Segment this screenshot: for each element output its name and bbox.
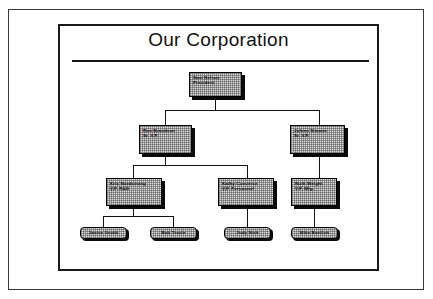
org-node-role: V.P. Personnel <box>222 186 273 191</box>
connector-to-svp-right <box>319 110 320 125</box>
connector-level4-bar-left <box>103 216 173 217</box>
chart-page: Our Corporation Sam Nelson President Ron… <box>0 0 433 299</box>
connector-to-staff-3 <box>247 206 248 227</box>
connector-to-staff-2 <box>173 216 174 227</box>
org-node-role: Sr. V.P. <box>294 133 344 138</box>
page-title: Our Corporation <box>58 29 379 51</box>
org-node-staff-4[interactable]: Mike Bartlich <box>291 227 338 239</box>
org-node-name: Mike Bartlich <box>300 230 329 235</box>
org-node-staff-3[interactable]: Judy Nish <box>224 227 271 239</box>
org-node-role: V.P. R&D <box>110 186 161 191</box>
org-node-name: Bob Trusle <box>161 230 185 235</box>
org-node-staff-2[interactable]: Bob Trusle <box>150 227 197 239</box>
connector-to-staff-4 <box>314 206 315 227</box>
title-divider <box>72 60 369 62</box>
org-node-staff-1[interactable]: Janice Grubb <box>80 227 127 239</box>
connector-to-vp-pers <box>247 165 248 178</box>
connector-to-vp-mfg <box>319 154 320 178</box>
connector-to-vp-rd <box>133 165 134 178</box>
org-node-vp-personnel[interactable]: Kathy Converse V.P. Personnel <box>218 178 274 206</box>
org-node-vp-rd[interactable]: Kris Nordstrong V.P. R&D <box>106 178 162 206</box>
connector-to-svp-left <box>165 110 166 125</box>
org-node-vp-mfg[interactable]: Ruth Weight V.P. Mfg. <box>291 178 337 206</box>
org-node-svp-right[interactable]: Juleen Simons Sr. V.P. <box>290 125 345 154</box>
connector-president-down <box>215 97 216 110</box>
org-node-name: Janice Grubb <box>89 230 119 235</box>
org-node-role: V.P. Mfg. <box>295 186 336 191</box>
org-node-role: President <box>193 80 241 85</box>
org-node-president[interactable]: Sam Nelson President <box>189 72 242 97</box>
connector-vp-rd-down <box>133 206 134 216</box>
connector-level2-bar <box>165 110 319 111</box>
connector-to-staff-1 <box>103 216 104 227</box>
connector-level3-bar <box>133 165 247 166</box>
org-node-role: Sr. V.P. <box>143 133 191 138</box>
connector-svp-left-down <box>165 154 166 165</box>
org-node-svp-left[interactable]: Ron Brandson Sr. V.P. <box>139 125 192 154</box>
org-node-name: Judy Nish <box>236 230 258 235</box>
